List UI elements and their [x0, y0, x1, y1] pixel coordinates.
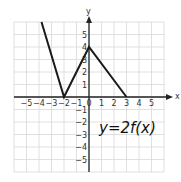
y-tick-label: −3	[75, 131, 87, 140]
x-tick-label: 0	[86, 99, 91, 108]
y-tick-label: 2	[82, 68, 87, 77]
y-axis-label: y	[86, 7, 91, 16]
x-axis-arrow-icon	[166, 94, 173, 100]
x-tick-label: −3	[46, 99, 58, 108]
x-tick-label: −5	[21, 99, 33, 108]
x-tick-label: 4	[136, 99, 141, 108]
function-graph: −5−4−3−2−1012345−5−4−3−2−112345 x y y=2f…	[0, 0, 181, 182]
x-tick-label: −2	[58, 99, 70, 108]
y-axis-arrow-icon	[86, 16, 92, 23]
x-tick-label: 1	[99, 99, 104, 108]
x-axis-label: x	[175, 92, 180, 101]
equation-annotation: y=2f(x)	[98, 119, 156, 137]
y-tick-label: −1	[75, 106, 87, 115]
y-tick-label: −5	[75, 156, 87, 165]
x-tick-label: 3	[124, 99, 129, 108]
y-tick-label: −2	[75, 118, 87, 127]
x-tick-label: 2	[111, 99, 116, 108]
axes	[14, 16, 173, 172]
x-tick-label: 5	[149, 99, 154, 108]
y-tick-label: 1	[82, 81, 87, 90]
x-tick-label: −4	[33, 99, 45, 108]
y-tick-label: 5	[82, 31, 87, 40]
y-tick-label: −4	[75, 143, 87, 152]
